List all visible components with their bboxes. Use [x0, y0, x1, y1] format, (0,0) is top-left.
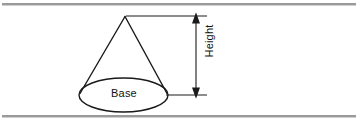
- dimension-arrowhead-down: [193, 88, 199, 97]
- dimension-arrowhead-up: [193, 14, 199, 23]
- base-label: Base: [96, 87, 152, 99]
- cone-left-slant: [80, 17, 125, 94]
- cone-figure: [0, 0, 361, 122]
- diagram-canvas: Base Height: [0, 0, 361, 122]
- dimension-annotation: [126, 14, 207, 97]
- cone-right-slant: [125, 17, 167, 94]
- height-label: Height: [203, 19, 215, 63]
